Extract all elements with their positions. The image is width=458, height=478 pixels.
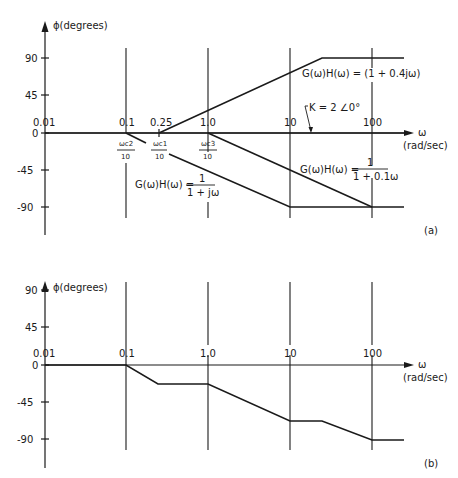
gridlines-b [126, 282, 372, 450]
x-axis-arrow-icon [404, 362, 414, 368]
y-tick-0: 0 [32, 360, 38, 371]
y-axis-label-a: ϕ(degrees) [53, 20, 108, 31]
svg-text:10: 10 [203, 153, 212, 161]
x-axis-unit-b: (rad/sec) [403, 372, 448, 383]
x-tick-0.1: 0.1 [119, 117, 135, 128]
annotation-pole2: G(ω)H(ω) = 1 1 + 0.1ω [300, 157, 398, 182]
panel-tag-a: (a) [424, 225, 438, 236]
svg-text:K = 2 ∠0°: K = 2 ∠0° [309, 102, 360, 113]
x-ticks-a: 0.01 0.1 0.25 1.0 10 100 [33, 117, 382, 128]
x-tick-0.01: 0.01 [33, 348, 55, 359]
svg-text:10: 10 [121, 153, 130, 161]
x-ticks-b: 0.01 0.1 1.0 10 100 [33, 348, 382, 359]
pointer-arrow-icon [309, 127, 314, 133]
svg-text:1: 1 [199, 173, 205, 184]
corner-wc2: ωc2 10 [117, 140, 135, 161]
svg-text:1: 1 [367, 157, 373, 168]
y-tick-45: 45 [25, 322, 38, 333]
svg-text:ωc3: ωc3 [201, 140, 215, 148]
x-tick-100: 100 [363, 117, 382, 128]
panel-a: ϕ(degrees) ω (rad/sec) 90 45 0 -45 -90 [17, 20, 448, 236]
x-axis-symbol-a: ω [418, 127, 426, 138]
y-axis-label-b: ϕ(degrees) [53, 282, 108, 293]
y-tick-90: 90 [25, 285, 38, 296]
svg-text:G(ω)H(ω) =: G(ω)H(ω) = [135, 179, 194, 190]
phase-plot-figure: ϕ(degrees) ω (rad/sec) 90 45 0 -45 -90 [0, 0, 458, 478]
x-tick-0.1: 0.1 [119, 348, 135, 359]
svg-text:1 + 0.1ω: 1 + 0.1ω [353, 171, 398, 182]
y-tick-0: 0 [32, 128, 38, 139]
annotation-pole1: G(ω)H(ω) = 1 1 + jω [135, 173, 219, 198]
y-tick-neg90: -90 [17, 202, 33, 213]
y-axis-arrow-icon [42, 21, 49, 32]
y-tick-90: 90 [25, 53, 38, 64]
corner-labels: ωc2 10 ωc1 10 ωc3 10 [117, 140, 217, 161]
svg-text:10: 10 [155, 153, 164, 161]
y-tick-neg45: -45 [17, 165, 33, 176]
curve-total-phase [45, 365, 404, 440]
svg-text:ωc2: ωc2 [119, 140, 133, 148]
panel-b: ϕ(degrees) ω (rad/sec) 90 45 0 -45 -90 [17, 281, 448, 469]
x-tick-1.0: 1.0 [200, 348, 216, 359]
annotation-zero-factor: G(ω)H(ω) = (1 + 0.4jω) [302, 68, 420, 79]
y-tick-neg90: -90 [17, 434, 33, 445]
svg-text:ωc1: ωc1 [153, 140, 167, 148]
x-axis-symbol-b: ω [418, 359, 426, 370]
annotation-gain: K = 2 ∠0° [305, 102, 360, 133]
x-tick-100: 100 [363, 348, 382, 359]
x-tick-0.25: 0.25 [150, 117, 172, 128]
svg-text:1 + jω: 1 + jω [187, 187, 219, 198]
x-tick-1.0: 1.0 [200, 117, 216, 128]
corner-wc1: ωc1 10 [151, 140, 167, 161]
svg-text:G(ω)H(ω) =: G(ω)H(ω) = [300, 164, 359, 175]
x-tick-10: 10 [284, 117, 297, 128]
x-axis-unit-a: (rad/sec) [403, 140, 448, 151]
y-ticks-b: 90 45 0 -45 -90 [17, 285, 49, 445]
panel-tag-b: (b) [424, 458, 438, 469]
y-ticks-a: 90 45 0 -45 -90 [17, 53, 49, 213]
x-tick-0.01: 0.01 [33, 117, 55, 128]
x-tick-10: 10 [284, 348, 297, 359]
y-tick-neg45: -45 [17, 397, 33, 408]
y-tick-45: 45 [25, 90, 38, 101]
